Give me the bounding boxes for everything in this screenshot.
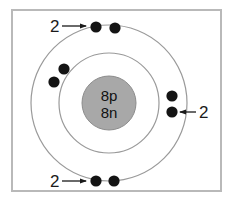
nucleus-proton-label: 8p xyxy=(101,87,118,104)
annotation-top: 2 xyxy=(50,17,86,36)
diagram-canvas: 8p 8n 222 xyxy=(0,0,235,207)
electron-outer-top-left xyxy=(90,21,101,32)
annotation-top-label: 2 xyxy=(50,17,59,36)
electron-outer-top-right xyxy=(109,22,120,33)
electron-inner-left-lower xyxy=(48,76,59,87)
electron-inner-left-upper xyxy=(58,63,69,74)
electron-outer-right-lower xyxy=(166,106,177,117)
electron-outer-bottom-right xyxy=(108,175,119,186)
annotation-right-label: 2 xyxy=(199,103,208,122)
electron-outer-right-upper xyxy=(166,90,177,101)
annotation-bottom-label: 2 xyxy=(50,172,59,191)
electron-outer-bottom-left xyxy=(90,175,101,186)
annotation-right: 2 xyxy=(180,103,208,122)
nucleus-group: 8p 8n xyxy=(82,76,136,130)
nucleus-neutron-label: 8n xyxy=(101,104,118,121)
bohr-model-diagram: 8p 8n 222 xyxy=(0,0,235,207)
annotation-bottom: 2 xyxy=(50,172,86,191)
